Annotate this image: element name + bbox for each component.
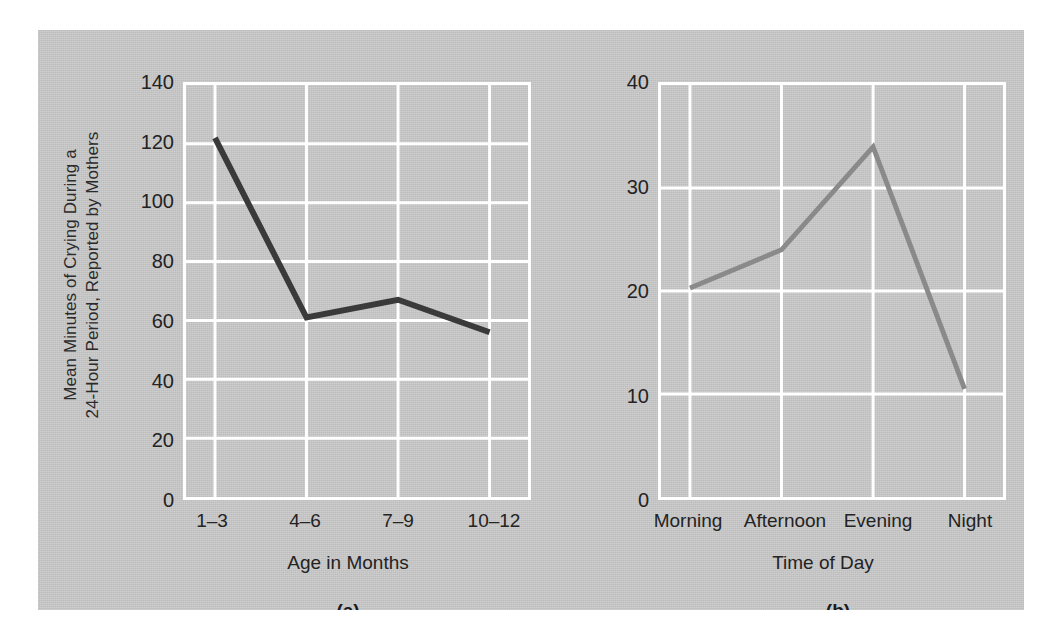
x-tick-b-2: Afternoon (744, 510, 826, 532)
x-axis-title-b: Time of Day (772, 552, 874, 574)
x-tick-a-4: 10–12 (468, 510, 521, 532)
y-tick-b-30: 30 (603, 175, 649, 198)
plot-area-a (183, 82, 531, 500)
x-tick-a-1: 1–3 (196, 510, 228, 532)
y-tick-a-140: 140 (128, 71, 174, 94)
x-tick-a-3: 7–9 (382, 510, 414, 532)
figure-panel: Mean Minutes of Crying During a 24-Hour … (38, 30, 1024, 610)
panel-label-a: (a) (336, 600, 359, 610)
y-tick-a-40: 40 (128, 369, 174, 392)
y-tick-a-120: 120 (128, 130, 174, 153)
chart-panel-a: Mean Minutes of Crying During a 24-Hour … (38, 30, 538, 610)
x-axis-title-a: Age in Months (287, 552, 408, 574)
y-tick-b-10: 10 (603, 384, 649, 407)
y-tick-b-40: 40 (603, 71, 649, 94)
y-tick-a-60: 60 (128, 309, 174, 332)
y-axis-title-a: Mean Minutes of Crying During a 24-Hour … (60, 60, 105, 490)
chart-svg-b (661, 85, 1003, 497)
chart-panel-b: Mean Minutes of Crying for 1- to 9-Month… (538, 30, 1024, 610)
x-tick-a-2: 4–6 (289, 510, 321, 532)
y-axis-title-a-line2: 24-Hour Period, Reported by Mothers (82, 60, 104, 490)
x-tick-b-1: Morning (654, 510, 723, 532)
y-tick-b-20: 20 (603, 280, 649, 303)
panel-label-b: (b) (826, 600, 850, 610)
y-tick-a-20: 20 (128, 429, 174, 452)
y-tick-b-0: 0 (603, 489, 649, 512)
y-tick-a-0: 0 (128, 489, 174, 512)
chart-svg-a (186, 85, 528, 497)
y-tick-a-80: 80 (128, 250, 174, 273)
x-tick-b-3: Evening (844, 510, 913, 532)
plot-area-b (658, 82, 1006, 500)
data-series-b (690, 147, 965, 389)
x-tick-b-4: Night (948, 510, 992, 532)
y-axis-title-a-line1: Mean Minutes of Crying During a (60, 60, 82, 490)
y-tick-a-100: 100 (128, 190, 174, 213)
data-series-a (215, 138, 490, 332)
